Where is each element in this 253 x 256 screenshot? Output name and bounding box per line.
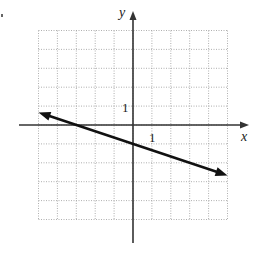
y-axis-arrow-icon [130,11,137,20]
corner-mark [1,14,3,17]
y-axis-label: y [119,6,125,20]
y-axis [130,11,137,243]
x-tick-label: 1 [149,131,156,144]
x-axis-arrow-icon [240,122,249,129]
y-tick-label: 1 [122,101,129,114]
x-axis [19,122,249,129]
x-axis-label: x [241,130,247,144]
line-arrow-left-icon [39,112,52,121]
coordinate-plane [0,0,253,256]
line-arrow-right-icon [215,167,228,176]
